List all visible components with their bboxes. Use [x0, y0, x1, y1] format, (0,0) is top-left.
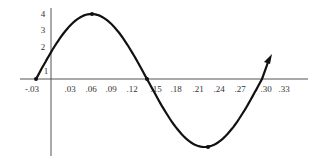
x-tick-label: .18 — [170, 84, 182, 94]
x-tick-label: .03 — [64, 84, 76, 94]
point-max — [90, 12, 94, 16]
x-tick-label: .27 — [234, 84, 246, 94]
sine-chart: 4 3 2 1 -.03 .03 .06 .09 .12 .15 .18 .21… — [0, 0, 321, 161]
y-tick-label: 4 — [41, 9, 46, 19]
x-tick-label: .24 — [213, 84, 225, 94]
point-min — [206, 145, 210, 149]
point-zero-crossing — [145, 77, 149, 81]
y-tick-label: 1 — [44, 66, 49, 76]
x-tick-label: -.03 — [25, 84, 40, 94]
x-tick-label: .09 — [105, 84, 117, 94]
x-tick-label: .30 — [260, 84, 272, 94]
sine-curve — [36, 14, 268, 147]
x-tick-label: .21 — [192, 84, 203, 94]
x-tick-label: .12 — [126, 84, 137, 94]
chart-svg: 4 3 2 1 -.03 .03 .06 .09 .12 .15 .18 .21… — [0, 0, 321, 161]
x-tick-label: .33 — [278, 84, 290, 94]
point-start — [34, 77, 38, 81]
arrowhead-icon — [264, 54, 272, 64]
y-tick-label: 2 — [41, 42, 46, 52]
x-tick-label: .06 — [85, 84, 97, 94]
y-tick-label: 3 — [41, 25, 46, 35]
